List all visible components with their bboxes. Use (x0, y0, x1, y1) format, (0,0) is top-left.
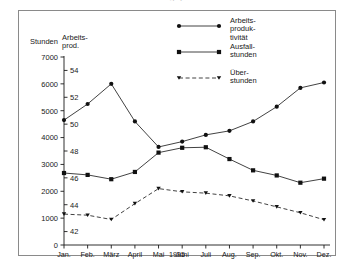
data-point-square (180, 146, 184, 150)
data-point-square (109, 177, 113, 181)
left-tick-label: 7000 (6, 53, 58, 62)
left-axis-title: Stunden (30, 38, 58, 46)
data-point-circle (180, 140, 184, 144)
legend-label: Arbeits-produk-tivität (230, 17, 256, 42)
right-tick-label: 52 (70, 93, 78, 102)
series-line (64, 189, 324, 220)
legend-label: Ausfall-stunden (230, 43, 257, 60)
x-axis-year-label: 1995 (0, 250, 354, 259)
data-point-triangle (322, 218, 326, 222)
series-ausfallstunden (62, 145, 326, 185)
series-line (64, 83, 324, 147)
data-point-square (62, 171, 66, 175)
right-tick-label: 42 (70, 227, 78, 236)
data-point-square (298, 181, 302, 185)
data-point-square (217, 50, 221, 54)
data-point-circle (275, 105, 279, 109)
left-tick-label: 3000 (6, 160, 58, 169)
data-point-circle (177, 24, 181, 28)
data-point-square (251, 168, 255, 172)
data-point-square (227, 157, 231, 161)
left-tick-label: 6000 (6, 80, 58, 89)
data-point-circle (109, 82, 113, 86)
data-point-circle (156, 145, 160, 149)
legend-label-line: stunden (230, 77, 257, 85)
right-axis-title-line2: prod. (62, 42, 79, 50)
data-point-triangle (217, 76, 221, 80)
chart-figure: g y Stunden Arbeits- prod. 0100020003000… (0, 0, 354, 276)
data-point-circle (298, 86, 302, 90)
data-point-circle (227, 129, 231, 133)
legend-label: Über-stunden (230, 69, 257, 86)
legend-label-line: stunden (230, 51, 257, 59)
data-point-circle (204, 133, 208, 137)
series-arbeitsproduktivität (62, 80, 326, 149)
data-point-square (322, 177, 326, 181)
data-point-circle (62, 118, 66, 122)
data-point-circle (217, 24, 221, 28)
data-point-circle (251, 119, 255, 123)
data-point-square (204, 145, 208, 149)
data-point-square (86, 173, 90, 177)
data-point-square (156, 151, 160, 155)
right-tick-label: 50 (70, 120, 78, 129)
left-tick-label: 0 (6, 241, 58, 250)
legend-label-line: tivität (230, 34, 256, 42)
legend-marker-circle-icon (176, 25, 222, 27)
data-point-square (177, 50, 181, 54)
data-point-circle (133, 119, 137, 123)
legend-marker-triangle-down-icon (176, 77, 222, 79)
data-point-circle (86, 102, 90, 106)
left-tick-label: 1000 (6, 214, 58, 223)
data-point-circle (322, 80, 326, 84)
right-tick-label: 48 (70, 147, 78, 156)
series-überstunden (62, 187, 326, 222)
left-tick-label: 4000 (6, 133, 58, 142)
right-tick-label: 44 (70, 201, 78, 210)
data-point-triangle (109, 218, 113, 222)
legend-marker-square-icon (176, 51, 222, 53)
left-tick-label: 2000 (6, 187, 58, 196)
right-tick-label: 46 (70, 174, 78, 183)
left-tick-label: 5000 (6, 107, 58, 116)
data-point-square (275, 173, 279, 177)
data-point-square (133, 170, 137, 174)
right-tick-label: 54 (70, 66, 78, 75)
series-line (64, 147, 324, 182)
